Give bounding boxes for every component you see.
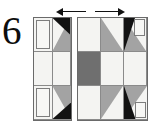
figure-number: 6: [2, 11, 22, 50]
cell-r3c2: [53, 86, 72, 120]
cell-r2c2: [101, 52, 124, 86]
cell-r3c3: [124, 86, 147, 120]
cell-r3c2: [101, 86, 124, 120]
corner-square-patch: [36, 20, 50, 49]
cell-r2c3: [124, 52, 147, 86]
arrow-left-icon: [56, 7, 86, 16]
figure-canvas: 6: [0, 0, 152, 128]
corner-square-patch: [135, 102, 147, 119]
cell-r1c1: [78, 18, 101, 52]
medium-triangle: [101, 86, 123, 119]
cell-r1c2: [101, 18, 124, 52]
cell-r1c2: [53, 18, 72, 52]
corner-square-patch: [134, 19, 145, 36]
arrow-right-icon: [95, 7, 125, 16]
partial-block-left-grid: [34, 18, 71, 120]
full-block-right-grid: [78, 18, 147, 120]
full-block-right: [77, 17, 148, 121]
corner-square-patch: [36, 88, 50, 117]
medium-triangle: [101, 18, 123, 51]
arrow-right-head: [118, 8, 125, 16]
cell-r2c2: [53, 52, 72, 86]
cell-r3c1: [78, 86, 101, 120]
arrow-left-shaft: [62, 11, 86, 12]
cell-r1c3: [124, 18, 147, 52]
cell-r3c1: [34, 86, 53, 120]
cell-r1c1: [34, 18, 53, 52]
arrow-right-shaft: [95, 11, 119, 12]
arrow-left-head: [56, 8, 63, 16]
cell-r2c1: [78, 52, 101, 86]
cell-r2c1: [34, 52, 53, 86]
partial-block-left: [33, 17, 72, 121]
